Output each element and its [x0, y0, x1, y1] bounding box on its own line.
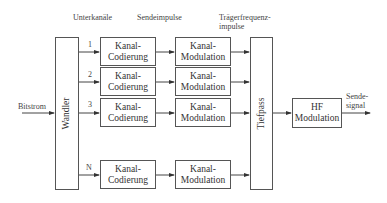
- channel-modulation-block: Kanal- Modulation: [175, 37, 231, 66]
- hf-modulation-line2: Modulation: [295, 113, 339, 124]
- output-label-line2: signal: [346, 101, 368, 110]
- converter-block: Wandler: [55, 37, 79, 190]
- coding-line1: Kanal-: [115, 41, 141, 52]
- coding-line2: Codierung: [108, 175, 148, 186]
- channel-coding-block: Kanal- Codierung: [100, 37, 156, 66]
- coding-line2: Codierung: [108, 52, 148, 63]
- channel-modulation-block: Kanal- Modulation: [175, 67, 231, 96]
- modulation-line2: Modulation: [181, 82, 225, 93]
- modulation-line1: Kanal-: [190, 71, 216, 82]
- channel-modulation-block: Kanal- Modulation: [175, 98, 231, 127]
- header-subchannels: Unterkanäle: [73, 13, 112, 22]
- coding-line1: Kanal-: [115, 102, 141, 113]
- ofdm-transmitter-diagram: Unterkanäle Sendeimpulse Trägerfrequenz-…: [0, 0, 387, 203]
- input-label: Bitstrom: [18, 102, 46, 111]
- header-send-pulses: Sendeimpulse: [137, 13, 182, 22]
- coding-line1: Kanal-: [115, 71, 141, 82]
- header-carrier-pulses-line2: impulse: [219, 22, 271, 31]
- modulation-line1: Kanal-: [190, 164, 216, 175]
- hf-modulation-line1: HF: [311, 102, 323, 113]
- modulation-line1: Kanal-: [190, 41, 216, 52]
- channel-modulation-block: Kanal- Modulation: [175, 160, 231, 189]
- channel-coding-block: Kanal- Codierung: [100, 98, 156, 127]
- lowpass-label: Tiefpass: [256, 98, 267, 130]
- hf-modulation-block: HF Modulation: [292, 98, 342, 128]
- coding-line2: Codierung: [108, 113, 148, 124]
- output-label-line1: Sende-: [346, 92, 368, 101]
- channel-number: 2: [88, 70, 92, 79]
- channel-coding-block: Kanal- Codierung: [100, 160, 156, 189]
- channel-coding-block: Kanal- Codierung: [100, 67, 156, 96]
- channel-number: 1: [88, 40, 92, 49]
- channel-number: 3: [88, 100, 92, 109]
- lowpass-block: Tiefpass: [250, 37, 273, 190]
- modulation-line2: Modulation: [181, 175, 225, 186]
- header-carrier-pulses-line1: Trägerfrequenz-: [219, 13, 271, 22]
- modulation-line2: Modulation: [181, 113, 225, 124]
- output-label: Sende- signal: [346, 92, 368, 110]
- coding-line1: Kanal-: [115, 164, 141, 175]
- modulation-line2: Modulation: [181, 52, 225, 63]
- modulation-line1: Kanal-: [190, 102, 216, 113]
- converter-label: Wandler: [62, 98, 73, 130]
- channel-number: N: [86, 163, 92, 172]
- header-carrier-pulses: Trägerfrequenz- impulse: [219, 13, 271, 31]
- coding-line2: Codierung: [108, 82, 148, 93]
